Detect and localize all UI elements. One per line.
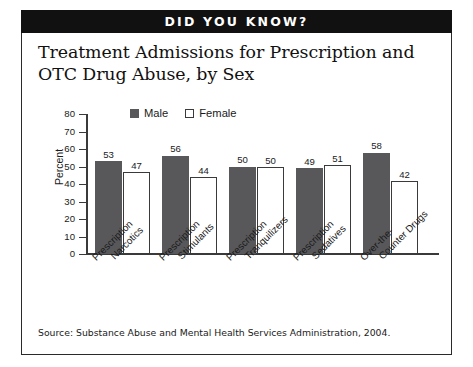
bar-value-label: 44 xyxy=(198,166,209,176)
y-tick-label: 30 xyxy=(47,197,75,207)
y-tick-label: 20 xyxy=(47,214,75,224)
did-you-know-card: DID YOU KNOW? Treatment Admissions for P… xyxy=(21,10,452,355)
bar-value-label: 50 xyxy=(265,156,276,166)
y-tick-label: 0 xyxy=(47,249,75,259)
y-tick-label: 80 xyxy=(47,109,75,119)
bar-value-label: 51 xyxy=(332,154,343,164)
y-tick-label: 50 xyxy=(47,162,75,172)
bar-value-label: 50 xyxy=(237,155,248,165)
source-note: Source: Substance Abuse and Mental Healt… xyxy=(38,327,390,338)
bar-value-label: 56 xyxy=(170,144,181,154)
chart-plot-area: Percent 80 70 60 50 40 30 20 10 0 xyxy=(22,11,453,356)
x-axis-categories: Prescription Narcotics Prescription Stim… xyxy=(86,255,446,325)
y-tick-label: 10 xyxy=(47,232,75,242)
bar-value-label: 58 xyxy=(371,141,382,151)
page-root: DID YOU KNOW? Treatment Admissions for P… xyxy=(0,0,473,367)
y-tick-label: 70 xyxy=(47,127,75,137)
y-tick-label: 40 xyxy=(47,179,75,189)
bar-value-label: 49 xyxy=(304,157,315,167)
bar-value-label: 42 xyxy=(399,170,410,180)
bar-value-label: 53 xyxy=(103,150,114,160)
y-tick-label: 60 xyxy=(47,144,75,154)
bar-value-label: 47 xyxy=(131,161,142,171)
